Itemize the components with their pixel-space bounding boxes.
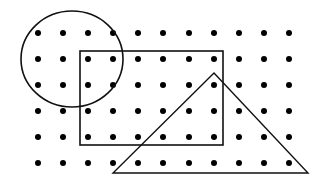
grid-dot <box>85 134 91 140</box>
triangle-shape <box>113 73 308 173</box>
grid-dot <box>236 56 242 62</box>
grid-dot <box>135 134 141 140</box>
grid-dot <box>261 56 267 62</box>
grid-dot <box>135 160 141 166</box>
grid-dot <box>60 30 66 36</box>
diagram-canvas <box>0 0 321 183</box>
grid-dot <box>261 160 267 166</box>
grid-dot <box>186 160 192 166</box>
grid-dot <box>60 108 66 114</box>
grid-dot <box>211 108 217 114</box>
grid-dot <box>85 30 91 36</box>
grid-dot <box>211 30 217 36</box>
grid-dot <box>35 82 41 88</box>
grid-dot <box>186 108 192 114</box>
grid-dot <box>211 56 217 62</box>
grid-dot <box>186 56 192 62</box>
grid-dot <box>60 82 66 88</box>
grid-dot <box>236 82 242 88</box>
grid-dot <box>186 82 192 88</box>
grid-dot <box>236 108 242 114</box>
grid-dot <box>60 160 66 166</box>
grid-dot <box>35 30 41 36</box>
grid-dot <box>35 56 41 62</box>
grid-dot <box>286 82 292 88</box>
grid-dot <box>35 134 41 140</box>
grid-dot <box>110 56 116 62</box>
grid-dot <box>60 56 66 62</box>
grid-dot <box>35 108 41 114</box>
grid-dot <box>110 160 116 166</box>
grid-dot <box>85 82 91 88</box>
grid-dot <box>236 30 242 36</box>
grid-dot <box>186 134 192 140</box>
grid-dot <box>160 56 166 62</box>
dot-grid-diagram <box>0 0 321 183</box>
grid-dot <box>286 30 292 36</box>
grid-dot <box>160 108 166 114</box>
grid-dot <box>236 134 242 140</box>
grid-dot <box>135 82 141 88</box>
grid-dot <box>261 108 267 114</box>
grid-dot <box>60 134 66 140</box>
grid-dot <box>236 160 242 166</box>
grid-dot <box>135 108 141 114</box>
grid-dot <box>286 108 292 114</box>
grid-dot <box>286 134 292 140</box>
grid-dot <box>85 108 91 114</box>
grid-dot <box>211 134 217 140</box>
grid-dot <box>261 82 267 88</box>
grid-dot <box>261 134 267 140</box>
grid-dot <box>135 30 141 36</box>
grid-dot <box>261 30 267 36</box>
grid-dot <box>85 160 91 166</box>
grid-dot <box>110 108 116 114</box>
grid-dot <box>35 160 41 166</box>
grid-dot <box>186 30 192 36</box>
grid-dot <box>110 134 116 140</box>
grid-dot <box>85 56 91 62</box>
grid-dot <box>211 82 217 88</box>
grid-dot <box>135 56 141 62</box>
grid-dot <box>286 160 292 166</box>
grid-dot <box>160 160 166 166</box>
grid-dot <box>160 134 166 140</box>
grid-dot <box>286 56 292 62</box>
grid-dot <box>160 30 166 36</box>
grid-dot <box>211 160 217 166</box>
grid-dot <box>160 82 166 88</box>
